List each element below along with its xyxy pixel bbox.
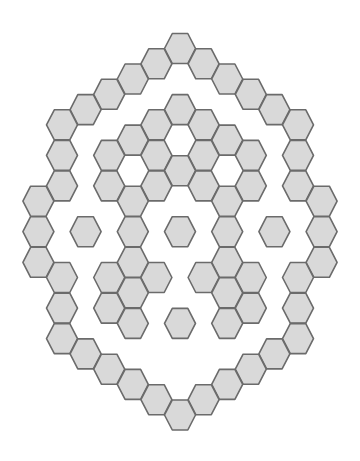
hexagon-cell (259, 217, 290, 247)
hexagon-cell (165, 217, 196, 247)
hexagon-cell (117, 186, 148, 216)
hexagon-cell (212, 308, 243, 338)
hexagon-cell (283, 263, 314, 293)
hexagon-cell (117, 308, 148, 338)
hexagon-cell (212, 217, 243, 247)
hexagon-cell (165, 400, 196, 430)
hexagon-cell (212, 186, 243, 216)
hexagon-cell (117, 217, 148, 247)
hexagon-cell (306, 217, 337, 247)
hexagon-cell (235, 140, 266, 170)
hexagon-cell (165, 308, 196, 338)
hexagon-cell (47, 263, 78, 293)
hex-pattern-diagram (0, 0, 360, 461)
hexagon-cell (70, 217, 101, 247)
hexagon-cell (23, 217, 54, 247)
hexagon-cell (283, 140, 314, 170)
hexagon-cell (47, 110, 78, 140)
hexagon-cell (283, 110, 314, 140)
hexagon-cell (47, 293, 78, 323)
hexagon-cell (306, 186, 337, 216)
hexagon-cell (283, 293, 314, 323)
hexagon-cell (94, 140, 125, 170)
hexagon-cell (23, 186, 54, 216)
hexagon-cell (47, 140, 78, 170)
